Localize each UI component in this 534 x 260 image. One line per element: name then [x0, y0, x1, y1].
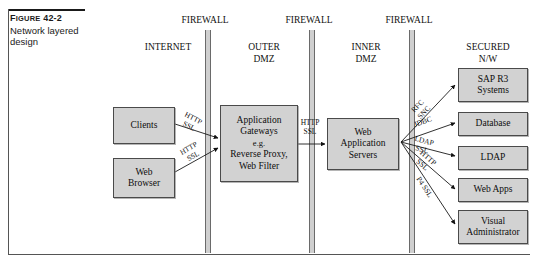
node-clients: Clients: [113, 107, 175, 144]
connection-label-gateways-to-webappservers: HTTPSSL: [292, 119, 328, 136]
node-web-browser: WebBrowser: [113, 158, 175, 198]
node-visual-administrator: VisualAdministrator: [458, 210, 528, 244]
firewall-1-label: FIREWALL: [168, 14, 242, 26]
figure-title: Network layered design: [10, 25, 98, 48]
node-web-apps: Web Apps: [458, 178, 528, 202]
zone-label-secured-nw: SECUREDN/W: [448, 41, 528, 65]
zone-label-outer-dmz: OUTERDMZ: [228, 41, 300, 65]
caption-top-rule: [9, 9, 85, 11]
firewall-2-label: FIREWALL: [272, 14, 346, 26]
node-label-web-application-servers: WebApplicationServers: [339, 127, 388, 162]
zone-label-internet: INTERNET: [132, 41, 204, 53]
node-label-application-gateways: ApplicationGatewayse.g.Reverse Proxy,Web…: [228, 115, 289, 173]
figure-network-layered-design: FIGURE 42-2 Network layered design INTER…: [0, 0, 534, 260]
node-ldap: LDAP: [458, 146, 528, 170]
node-label-clients: Clients: [129, 120, 160, 132]
figure-left-border: [8, 9, 9, 255]
node-label-visual-administrator: VisualAdministrator: [464, 216, 521, 239]
zone-label-inner-dmz: INNERDMZ: [330, 41, 402, 65]
node-web-application-servers: WebApplicationServers: [327, 118, 399, 170]
node-sap-r3-systems: SAP R3Systems: [458, 68, 528, 102]
node-label-sap-r3-systems: SAP R3Systems: [475, 74, 511, 97]
firewall-2-bar: [309, 30, 315, 253]
firewall-3-label: FIREWALL: [372, 14, 446, 26]
figure-caption: FIGURE 42-2 Network layered design: [10, 13, 98, 48]
node-label-ldap: LDAP: [479, 152, 508, 164]
node-database: Database: [458, 112, 528, 136]
figure-number: FIGURE 42-2: [10, 13, 62, 23]
figure-bottom-border: [8, 254, 530, 255]
node-label-database: Database: [474, 118, 513, 130]
node-label-web-apps: Web Apps: [471, 184, 514, 196]
node-label-web-browser: WebBrowser: [126, 167, 162, 190]
node-application-gateways: ApplicationGatewayse.g.Reverse Proxy,Web…: [220, 105, 298, 182]
